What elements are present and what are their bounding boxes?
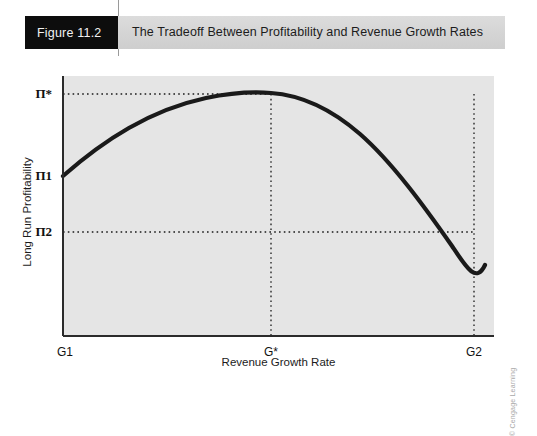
y-tick-label-pi-1: Π1 xyxy=(22,168,52,184)
chart-canvas xyxy=(0,56,537,388)
copyright-credit: © Cengage Learning xyxy=(509,346,516,436)
chart-figure: Long Run Profitability Π* Π1 Π2 G1 G* G2… xyxy=(0,56,537,388)
y-axis-title: Long Run Profitability xyxy=(21,122,33,302)
plot-area-texture xyxy=(63,76,494,336)
figure-number-badge: Figure 11.2 xyxy=(25,16,118,49)
figure-title: The Tradeoff Between Profitability and R… xyxy=(132,16,483,49)
figure-number-label: Figure 11.2 xyxy=(37,26,102,40)
y-tick-label-pi-2: Π2 xyxy=(22,224,52,240)
x-axis-title: Revenue Growth Rate xyxy=(63,356,494,368)
figure-header: Figure 11.2 The Tradeoff Between Profita… xyxy=(0,0,537,56)
y-tick-label-pi-star: Π* xyxy=(22,86,52,102)
